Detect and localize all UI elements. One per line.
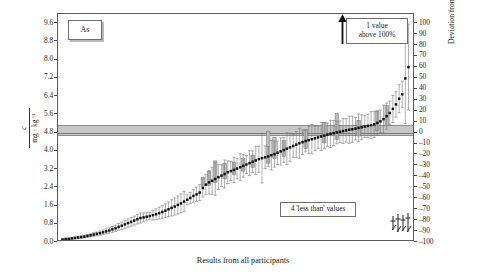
data-marker [354, 127, 356, 129]
right-axis-title: Deviation from the certified value in % [447, 0, 456, 44]
left-tick-label: 7.2 [30, 72, 53, 81]
data-point-group [295, 132, 298, 158]
data-point-group [257, 146, 260, 172]
data-point-group [329, 120, 332, 147]
data-marker [173, 205, 175, 207]
data-marker [261, 157, 263, 159]
data-marker [264, 156, 266, 158]
data-point-group [158, 207, 161, 219]
data-marker [114, 227, 116, 229]
left-axis-denominator: mg · kg⁻¹ [31, 113, 39, 143]
data-marker [124, 223, 126, 225]
data-point-group [80, 236, 83, 238]
data-point-group [182, 191, 185, 211]
data-marker [111, 228, 113, 230]
right-tick-label: 30 [419, 94, 426, 103]
data-point-group [404, 33, 407, 123]
data-marker [130, 221, 132, 223]
data-marker [152, 214, 154, 216]
data-marker [367, 125, 369, 127]
right-tick [414, 22, 417, 23]
right-tick-label: 70 [419, 50, 426, 59]
data-point-group [114, 225, 117, 231]
data-point-group [189, 192, 192, 203]
data-marker [301, 141, 303, 143]
left-tick [54, 22, 57, 23]
data-point-group [260, 133, 263, 183]
left-tick-label: 3.2 [30, 164, 53, 173]
data-point-group [176, 196, 179, 214]
data-marker [326, 133, 328, 135]
data-point-group [326, 123, 329, 147]
data-marker [86, 235, 88, 237]
plot-area [57, 13, 414, 241]
data-point-group [167, 202, 170, 217]
data-point-group [226, 161, 229, 184]
data-point-group [126, 219, 129, 227]
data-point-group [270, 141, 273, 170]
data-point-group [242, 155, 245, 178]
data-marker [332, 132, 334, 134]
left-tick-label: 0.0 [30, 237, 53, 246]
data-point-group [211, 167, 214, 194]
data-point-group [320, 122, 323, 150]
data-point-group [288, 133, 291, 161]
data-point-group [394, 92, 397, 117]
data-point-group [307, 127, 310, 154]
data-marker [329, 133, 331, 135]
right-tick [414, 219, 417, 220]
data-marker [161, 211, 163, 213]
left-tick [54, 77, 57, 78]
data-marker [255, 159, 257, 161]
data-marker [195, 193, 197, 195]
data-marker [217, 176, 219, 178]
data-point-group [161, 206, 164, 219]
data-marker [395, 103, 397, 105]
data-marker [77, 236, 79, 238]
data-marker [339, 131, 341, 133]
data-point-group [217, 165, 220, 190]
data-point-group [186, 195, 189, 205]
data-marker [202, 187, 204, 189]
right-tick-label: 0 [419, 127, 423, 136]
data-point-group [332, 120, 335, 145]
data-point-group [379, 110, 382, 133]
data-marker [407, 66, 409, 68]
right-tick-label: 90 [419, 29, 426, 38]
analyte-label-box: As [68, 20, 102, 40]
data-marker [311, 138, 313, 140]
data-marker [92, 233, 94, 235]
right-tick-label: 40 [419, 83, 426, 92]
left-tick-label: 8.0 [30, 54, 53, 63]
data-point-group [338, 121, 341, 143]
data-marker [323, 134, 325, 136]
data-marker [389, 112, 391, 114]
data-marker [245, 163, 247, 165]
left-tick [54, 186, 57, 187]
data-point-group [70, 237, 73, 239]
data-marker [96, 233, 98, 235]
data-marker [180, 202, 182, 204]
data-marker [360, 126, 362, 128]
left-tick [54, 95, 57, 96]
data-marker [136, 218, 138, 220]
data-series [58, 14, 413, 240]
data-point-group [73, 237, 76, 239]
data-point-group [292, 135, 295, 158]
data-point-group [95, 232, 98, 236]
data-marker [102, 231, 104, 233]
right-tick-label: 60 [419, 61, 426, 70]
data-marker [286, 147, 288, 149]
data-point-group [279, 138, 282, 165]
less-than-note: 4 'less than' values [280, 202, 356, 217]
data-point-group [310, 125, 313, 154]
data-marker [214, 178, 216, 180]
data-marker [379, 120, 381, 122]
data-marker [279, 150, 281, 152]
right-tick [414, 208, 417, 209]
data-marker [276, 152, 278, 154]
data-marker [127, 222, 129, 224]
right-tick [414, 132, 417, 133]
data-marker [177, 204, 179, 206]
data-marker [317, 136, 319, 138]
